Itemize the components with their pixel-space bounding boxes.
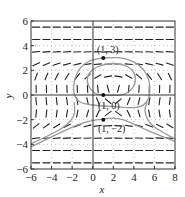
y-tick-label: −4 <box>16 138 28 150</box>
point-1-3 <box>101 56 105 60</box>
y-tick-label: 6 <box>23 15 29 27</box>
point-label-1-0: (1, 0) <box>98 100 120 112</box>
point-label-1-neg2: (1, −2) <box>98 123 125 135</box>
y-tick-label: 2 <box>23 64 29 76</box>
x-tick-label: −4 <box>46 171 58 183</box>
y-tick-label: −2 <box>16 114 28 126</box>
x-tick-label: −2 <box>66 171 78 183</box>
x-tick-label: 6 <box>152 171 158 183</box>
x-axis-title: x <box>99 183 105 195</box>
point-1-neg2 <box>101 118 105 122</box>
y-axis-title: y <box>2 93 14 99</box>
y-tick-label: −6 <box>16 163 28 175</box>
x-tick-label: 8 <box>172 171 178 183</box>
point-1-0 <box>101 93 105 97</box>
x-tick-label: 0 <box>90 171 96 183</box>
x-tick-label: 4 <box>131 171 137 183</box>
point-label-1-3: (1, 3) <box>97 44 119 56</box>
x-tick-label: 2 <box>111 171 117 183</box>
y-tick-label: 4 <box>23 40 29 52</box>
y-tick-label: 0 <box>23 89 29 101</box>
slope-field-figure: −6 −4 −2 0 2 4 6 8 6 4 2 0 −2 −4 −6 x y … <box>0 0 185 197</box>
